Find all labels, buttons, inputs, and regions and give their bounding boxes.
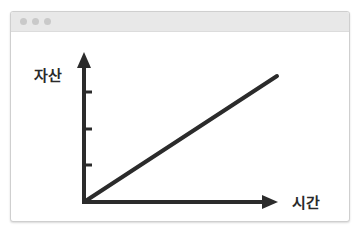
x-axis-arrow-icon [262, 195, 278, 209]
y-axis-arrow-icon [77, 52, 91, 68]
x-axis-label: 시간 [292, 191, 319, 212]
growth-line [84, 76, 277, 202]
y-axis-label: 자산 [34, 64, 61, 85]
